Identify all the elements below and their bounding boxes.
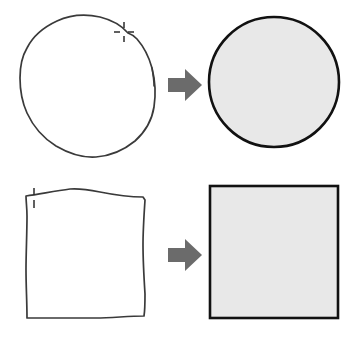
clean-square-path [210,186,338,318]
caret-icon [27,188,41,210]
hand-drawn-circle-sketch[interactable] [0,0,170,170]
clean-circle-path [209,17,339,147]
hand-drawn-square-sketch[interactable] [0,170,170,340]
crosshair-icon [114,22,134,42]
sketch-circle-wobble [152,68,154,86]
sketch-circle-path [20,15,155,157]
circle-row [0,0,356,170]
square-row [0,170,356,340]
recognized-circle-shape[interactable] [196,0,356,170]
sketch-square-path [26,189,145,318]
recognized-square-shape[interactable] [196,170,356,340]
illustration-canvas [0,0,356,340]
